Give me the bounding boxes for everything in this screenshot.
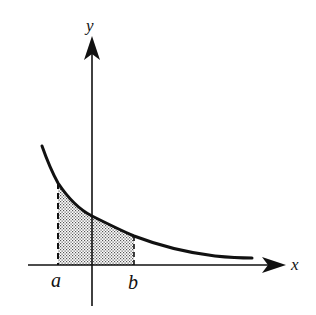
bound-a-label: a (51, 269, 61, 291)
bound-b-label: b (128, 271, 138, 293)
area-under-curve-diagram: y x a b (0, 0, 316, 315)
y-axis-label: y (84, 16, 94, 35)
shaded-area-region (58, 183, 134, 265)
x-axis-label: x (290, 255, 299, 274)
